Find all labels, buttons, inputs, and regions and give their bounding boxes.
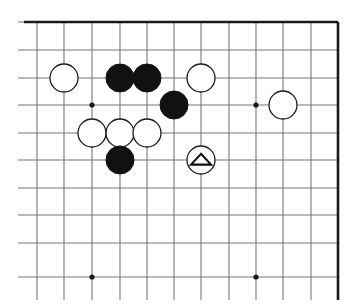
star-point-lower-left <box>89 274 94 279</box>
goban-canvas <box>0 0 359 307</box>
stone-white-w1 <box>50 64 78 92</box>
stone-black-b1 <box>106 64 134 92</box>
star-point-lower-right <box>253 274 258 279</box>
stone-black-b4 <box>106 146 134 174</box>
stone-white-w7 <box>187 146 215 174</box>
stone-black-b3 <box>160 91 188 119</box>
diagram-background <box>0 0 359 307</box>
go-board-diagram <box>0 0 359 307</box>
star-point-upper-left <box>89 102 94 107</box>
stone-white-w5 <box>106 119 134 147</box>
stone-white-w2 <box>187 64 215 92</box>
stone-white-w6 <box>133 119 161 147</box>
star-point-upper-right <box>253 102 258 107</box>
stone-white-w4 <box>78 119 106 147</box>
stone-white-w3 <box>269 91 297 119</box>
stone-black-b2 <box>133 64 161 92</box>
